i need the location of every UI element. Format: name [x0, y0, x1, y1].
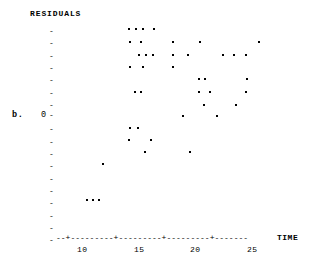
- y-axis-tick: -: [49, 212, 54, 220]
- data-point: [187, 54, 189, 56]
- data-point: [98, 199, 100, 201]
- data-point: [138, 54, 140, 56]
- data-point: [142, 66, 144, 68]
- y-axis-tick-zero: -: [49, 111, 54, 119]
- data-point: [209, 91, 211, 93]
- data-point: [172, 54, 174, 56]
- data-point: [150, 139, 152, 141]
- data-point: [128, 139, 130, 141]
- data-point: [137, 127, 139, 129]
- data-point: [198, 91, 200, 93]
- y-axis-tick: -: [49, 150, 54, 158]
- data-point: [128, 28, 130, 30]
- data-point: [258, 41, 260, 43]
- data-point: [172, 41, 174, 43]
- y-axis-title: RESIDUALS: [30, 10, 81, 18]
- x-axis-tick-label: 15: [134, 246, 145, 254]
- data-point: [203, 104, 205, 106]
- data-point: [153, 28, 155, 30]
- data-point: [142, 28, 144, 30]
- y-axis-tick: -: [49, 187, 54, 195]
- data-point: [144, 151, 146, 153]
- data-point: [140, 91, 142, 93]
- y-axis-tick: -: [49, 236, 54, 244]
- y-axis-tick: -: [49, 89, 54, 97]
- y-axis-tick: -: [49, 64, 54, 72]
- data-point: [152, 54, 154, 56]
- y-axis-tick: -: [49, 199, 54, 207]
- x-axis-tick-label: 10: [77, 246, 88, 254]
- data-point: [86, 199, 88, 201]
- data-point: [92, 199, 94, 201]
- y-axis-tick: -: [49, 52, 54, 60]
- y-axis-tick: -: [49, 27, 54, 35]
- data-point: [245, 91, 247, 93]
- data-point: [189, 151, 191, 153]
- data-point: [216, 115, 218, 117]
- y-axis-tick: -: [49, 39, 54, 47]
- data-point: [172, 66, 174, 68]
- data-point: [233, 54, 235, 56]
- x-axis-tick-label: 20: [190, 246, 201, 254]
- data-point: [135, 28, 137, 30]
- data-point: [129, 66, 131, 68]
- residual-scatter-plot: RESIDUALS b. 0 ------------------ --+---…: [0, 0, 315, 262]
- data-point: [102, 163, 104, 165]
- y-axis-tick: -: [49, 175, 54, 183]
- data-point: [129, 41, 131, 43]
- y-axis-tick: -: [49, 125, 54, 133]
- y-axis-tick: -: [49, 224, 54, 232]
- data-point: [222, 54, 224, 56]
- y-axis-zero-label: 0: [41, 110, 47, 120]
- data-point: [198, 78, 200, 80]
- y-axis-tick: -: [49, 101, 54, 109]
- x-axis-tick-label: 25: [247, 246, 258, 254]
- data-point: [199, 41, 201, 43]
- data-point: [235, 104, 237, 106]
- x-axis-line: --+---------+---------+---------+-------: [56, 234, 248, 242]
- x-axis-title: TIME: [277, 234, 298, 242]
- data-point: [145, 54, 147, 56]
- data-point: [204, 78, 206, 80]
- data-point: [246, 78, 248, 80]
- y-axis-tick: -: [49, 162, 54, 170]
- data-point: [245, 54, 247, 56]
- data-point: [129, 127, 131, 129]
- data-point: [134, 91, 136, 93]
- y-axis-tick: -: [49, 138, 54, 146]
- panel-label: b.: [12, 110, 23, 120]
- y-axis-tick: -: [49, 76, 54, 84]
- data-point: [182, 115, 184, 117]
- data-point: [140, 41, 142, 43]
